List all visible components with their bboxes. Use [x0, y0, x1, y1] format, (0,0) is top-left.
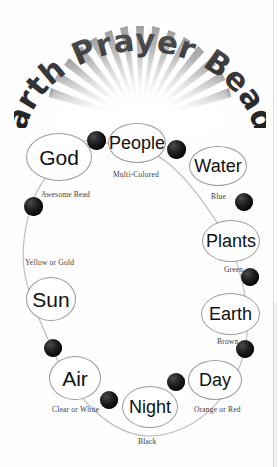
bead-oval-label: Earth [209, 305, 252, 323]
awesome-bead[interactable] [24, 197, 43, 216]
bead-oval-sun[interactable]: Sun [26, 277, 76, 321]
bead-between-air-sun[interactable] [44, 339, 62, 357]
bead-between-plants-earth[interactable] [241, 268, 259, 286]
bead-oval-god[interactable]: God [26, 133, 92, 181]
caption-night-color: Black [138, 437, 157, 446]
bead-oval-water[interactable]: Water [189, 146, 247, 186]
bead-oval-night[interactable]: Night [122, 386, 178, 428]
bead-between-night-air[interactable] [100, 391, 118, 409]
bead-oval-label: Sun [32, 289, 69, 310]
caption-air-color: Clear or White [52, 405, 99, 414]
caption-earth-color: Brown [217, 337, 238, 346]
bead-between-water-plants[interactable] [235, 193, 253, 211]
prayer-bead-diagram-page: Earth Prayer Beads God People Water Plan… [0, 0, 278, 467]
bead-between-day-night[interactable] [167, 373, 185, 391]
caption-water-color: Blue [211, 192, 226, 201]
bead-oval-label: Day [199, 371, 231, 389]
bead-oval-people[interactable]: People [108, 123, 166, 163]
bead-oval-day[interactable]: Day [188, 360, 242, 400]
caption-sun-color: Yellow or Gold [25, 258, 74, 267]
bead-oval-label: Water [194, 157, 241, 175]
caption-awesome-bead: Awesome Bead [41, 190, 90, 199]
bead-oval-label: God [39, 147, 79, 168]
caption-people-color: Multi-Colored [113, 170, 159, 179]
bead-oval-label: People [109, 134, 165, 152]
title-block: Earth Prayer Beads [0, 0, 278, 125]
bead-oval-label: Plants [206, 232, 256, 250]
caption-day-color: Orange or Red [194, 405, 241, 414]
bead-oval-air[interactable]: Air [49, 356, 101, 400]
bead-oval-label: Air [62, 368, 88, 389]
bead-between-people-water[interactable] [167, 140, 186, 159]
bead-oval-plants[interactable]: Plants [202, 220, 260, 262]
caption-plants-color: Green [224, 265, 243, 274]
bead-oval-label: Night [129, 398, 171, 416]
bead-oval-earth[interactable]: Earth [201, 293, 260, 335]
bead-between-earth-day[interactable] [236, 340, 254, 358]
bead-between-god-people[interactable] [87, 131, 106, 150]
